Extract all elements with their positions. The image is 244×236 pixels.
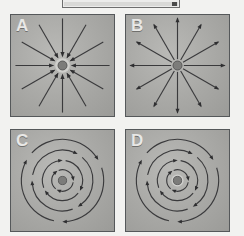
panel-c-circular-field[interactable]: C [10, 129, 115, 232]
field-arrowhead-outward [136, 41, 141, 45]
panel-d-field-diagram [126, 130, 229, 231]
field-arrowhead-outward [153, 102, 157, 107]
field-arc [66, 161, 83, 189]
field-arc [181, 161, 198, 189]
field-ray [183, 42, 218, 62]
field-arrowhead-inward [70, 70, 75, 74]
field-arrowhead-tangential [173, 159, 178, 163]
field-arrowhead-outward [176, 109, 180, 114]
field-arrowhead-outward [176, 17, 180, 22]
field-arc [180, 168, 219, 222]
panel-b-radial-outward[interactable]: B [125, 14, 230, 117]
field-ray [39, 74, 58, 107]
field-arrowhead-tangential [31, 181, 35, 186]
field-arrowhead-tangential [177, 220, 182, 224]
panel-a-field-diagram [11, 15, 114, 116]
field-arc [46, 192, 78, 200]
field-arrowhead-inward [60, 74, 64, 79]
field-arrowhead-outward [221, 64, 226, 68]
panel-d-circular-field[interactable]: D [125, 129, 230, 232]
field-ray [22, 70, 55, 89]
field-ray [181, 71, 201, 106]
field-arrowhead-outward [197, 24, 201, 29]
field-arrowhead-inward [67, 73, 71, 78]
field-ray [154, 71, 174, 106]
field-ray [67, 74, 86, 107]
field-arrowhead-tangential [172, 190, 177, 193]
field-ray [71, 42, 104, 61]
field-arc [21, 162, 54, 221]
field-arrowhead-outward [129, 64, 134, 68]
field-arrowhead-tangential [195, 186, 199, 191]
field-arrowhead-inward [70, 57, 75, 61]
field-ray [137, 69, 172, 89]
field-arc [42, 161, 60, 188]
field-arrowhead-tangential [58, 159, 63, 163]
field-arc [136, 162, 169, 221]
panel-a-radial-inward[interactable]: A [10, 14, 115, 117]
field-arc [161, 192, 193, 200]
caption-box[interactable] [62, 0, 180, 8]
field-arc [195, 157, 208, 205]
field-arrowhead-tangential [80, 186, 84, 191]
field-arrowhead-outward [197, 102, 201, 107]
field-ray [183, 69, 218, 89]
panel-b-center-dot [173, 61, 182, 70]
field-ray [39, 25, 58, 58]
field-arc [147, 183, 187, 211]
field-ray [154, 25, 174, 60]
field-arc [32, 183, 72, 211]
vector-field-figure-grid: A B C D [10, 14, 235, 236]
field-arrowhead-outward [136, 85, 141, 89]
field-arrowhead-outward [214, 41, 219, 45]
field-arrowhead-inward [54, 53, 58, 58]
panel-d-center-dot [173, 176, 181, 184]
field-ray [71, 70, 104, 89]
field-arc [65, 168, 104, 222]
field-arrowhead-inward [49, 63, 54, 67]
field-arrowhead-inward [71, 63, 76, 67]
field-ray [67, 25, 86, 58]
caption-box-inner [64, 2, 178, 6]
caption-box-resize-handle[interactable] [172, 2, 177, 6]
field-arrowhead-inward [67, 53, 71, 58]
panel-a-center-dot [58, 61, 67, 70]
field-arrowhead-outward [153, 24, 157, 29]
panel-b-field-diagram [126, 15, 229, 116]
field-arc [147, 139, 212, 158]
field-ray [22, 42, 55, 61]
field-arrowhead-tangential [71, 176, 75, 181]
panel-c-field-diagram [11, 130, 114, 231]
field-arrowhead-tangential [62, 220, 67, 224]
field-ray [181, 25, 201, 60]
field-ray [137, 42, 172, 62]
field-arrowhead-outward [214, 85, 219, 89]
field-arrowhead-tangential [146, 181, 150, 186]
field-arrowhead-tangential [57, 190, 62, 193]
field-arc [32, 139, 97, 158]
field-arrowhead-inward [50, 70, 55, 74]
panel-c-center-dot [58, 176, 66, 184]
field-arc [80, 157, 93, 205]
field-arrowhead-inward [60, 52, 64, 57]
field-arrowhead-inward [54, 73, 58, 78]
field-arrowhead-tangential [186, 176, 190, 181]
field-arrowhead-inward [50, 57, 55, 61]
